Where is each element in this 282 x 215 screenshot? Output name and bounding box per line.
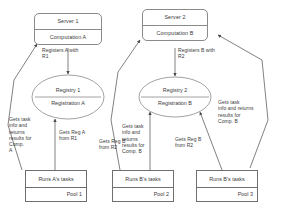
edge-label-gets-task-a: Gets task info and returns results for C…: [9, 116, 43, 154]
pool-2-task: Runs B's tasks: [113, 171, 173, 188]
server-1-computation: Computation A: [35, 30, 101, 45]
pool-1-task: Runs A's tasks: [26, 171, 86, 188]
edge-label-gets-reg-b-left: Gets Reg B from R2: [99, 138, 137, 151]
edge-label-register-b: Registers B with R2: [178, 47, 232, 60]
server-2-node[interactable]: Server 2 Computation B: [142, 9, 208, 41]
pool-3-node[interactable]: Runs B's tasks Pool 3: [196, 170, 258, 202]
edge-label-gets-reg-a: Gets Reg A from R1: [59, 129, 99, 142]
pool-1-name: Pool 1: [26, 188, 86, 201]
edge-label-gets-task-b-right: Gets task info and returns results for C…: [218, 99, 268, 124]
server-2-title: Server 2: [143, 10, 207, 26]
pool-1-node[interactable]: Runs A's tasks Pool 1: [25, 170, 87, 202]
server-2-computation: Computation B: [143, 26, 207, 41]
pool-2-name: Pool 2: [113, 188, 173, 201]
pool-2-node[interactable]: Runs B's tasks Pool 2: [112, 170, 174, 202]
diagram-canvas: Server 1 Computation A Server 2 Computat…: [0, 0, 282, 215]
edge-label-gets-reg-b-right: Gets Reg B from R2: [175, 136, 215, 149]
server-1-title: Server 1: [35, 14, 101, 30]
pool-3-task: Runs B's tasks: [197, 171, 257, 188]
server-1-node[interactable]: Server 1 Computation A: [34, 13, 102, 45]
pool-3-name: Pool 3: [197, 188, 257, 201]
edge-label-register-a: Registers A with R1: [42, 47, 96, 60]
